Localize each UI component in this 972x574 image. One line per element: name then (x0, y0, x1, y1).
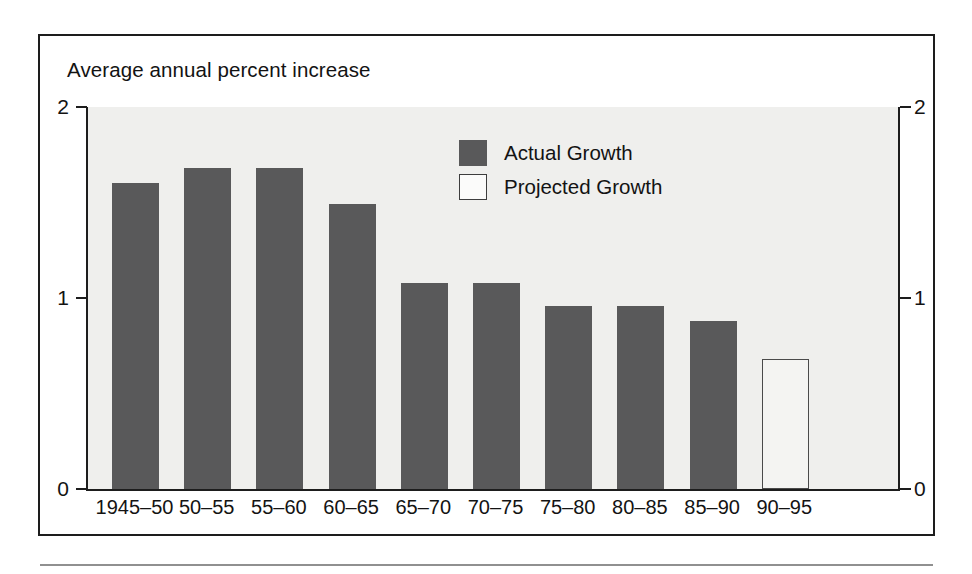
legend-item-projected: Projected Growth (459, 170, 662, 204)
x-axis-spine (86, 489, 900, 491)
legend-item-actual: Actual Growth (459, 136, 662, 170)
y-tick-right-0 (900, 488, 911, 490)
y-tick-label-left-0: 0 (57, 478, 69, 499)
y-tick-label-left-1: 1 (57, 287, 69, 308)
bar-70-75 (473, 283, 520, 489)
chart-title: Average annual percent increase (67, 58, 371, 82)
bar-55-60 (256, 168, 303, 489)
x-axis-label-90-95: 90–95 (724, 497, 844, 517)
y-tick-label-left-2: 2 (57, 96, 69, 117)
bar-60-65 (329, 204, 376, 489)
bar-1945-50 (112, 183, 159, 489)
y-tick-left-1 (76, 297, 87, 299)
bar-90-95 (762, 359, 809, 489)
bar-75-80 (545, 306, 592, 489)
figure-frame: Average annual percent increase 012 012 … (38, 34, 935, 536)
bar-65-70 (401, 283, 448, 489)
y-tick-right-1 (900, 297, 911, 299)
bottom-rule (40, 564, 933, 566)
bar-50-55 (184, 168, 231, 489)
legend-label-actual: Actual Growth (504, 141, 633, 165)
y-tick-label-right-1: 1 (914, 287, 926, 308)
bar-80-85 (617, 306, 664, 489)
y-tick-label-right-2: 2 (914, 96, 926, 117)
y-tick-label-right-0: 0 (914, 478, 926, 499)
x-axis-labels: 1945–5050–5555–6060–6565–7070–7575–8080–… (86, 497, 900, 527)
y-tick-right-2 (900, 106, 911, 108)
y-tick-left-2 (76, 106, 87, 108)
legend-swatch-projected-icon (459, 174, 487, 200)
legend-label-projected: Projected Growth (504, 175, 662, 199)
legend-swatch-actual-icon (459, 140, 487, 166)
bar-85-90 (690, 321, 737, 489)
chart-legend: Actual Growth Projected Growth (459, 136, 662, 204)
y-tick-left-0 (76, 488, 87, 490)
